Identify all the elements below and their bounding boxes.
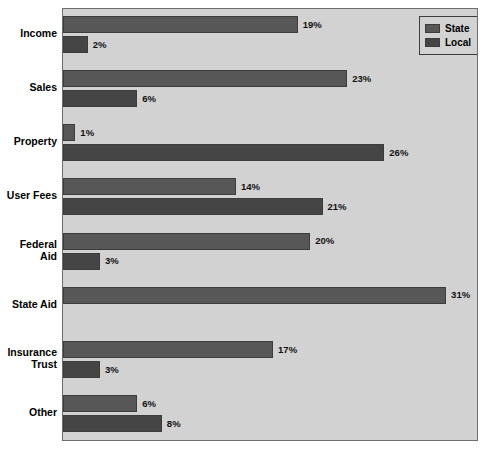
y-axis-label-line: Trust: [0, 358, 57, 370]
bar-value-label: 20%: [315, 236, 334, 246]
bar-group: 14%21%: [63, 171, 477, 225]
bar-rect: [63, 144, 384, 161]
bar-rect: [63, 253, 100, 270]
y-axis-label-line: Federal: [0, 238, 57, 250]
bar-value-label: 21%: [328, 202, 347, 212]
y-axis-label-sales: Sales: [0, 81, 57, 93]
y-axis-label-state-aid: State Aid: [0, 298, 57, 310]
bar-group: 19%2%: [63, 9, 477, 63]
bar-rect: [63, 178, 236, 195]
bar-rect: [63, 124, 75, 141]
y-axis-label-line: Income: [0, 27, 57, 39]
legend-label: State: [445, 23, 469, 34]
y-axis-label-other: Other: [0, 406, 57, 418]
y-axis-category-labels: IncomeSalesPropertyUser FeesFederalAidSt…: [0, 8, 57, 441]
bar-state: 23%: [63, 70, 371, 87]
legend-item-local[interactable]: Local: [425, 36, 471, 49]
bar-rect: [63, 287, 446, 304]
bar-value-label: 6%: [142, 399, 156, 409]
y-axis-label-user-fees: User Fees: [0, 189, 57, 201]
bar-rect: [63, 395, 137, 412]
bar-local: 3%: [63, 361, 119, 378]
bar-state: 14%: [63, 178, 260, 195]
bar-local: 26%: [63, 144, 408, 161]
bar-value-label: 17%: [278, 345, 297, 355]
y-axis-label-line: Property: [0, 135, 57, 147]
bar-group: 31%: [63, 280, 477, 334]
y-axis-label-income: Income: [0, 27, 57, 39]
legend-swatch-icon: [425, 24, 440, 33]
bar-value-label: 23%: [352, 74, 371, 84]
bar-value-label: 26%: [389, 148, 408, 158]
y-axis-label-federal-aid: FederalAid: [0, 238, 57, 262]
chart-legend: StateLocal: [419, 16, 478, 55]
bar-state: 6%: [63, 395, 156, 412]
bar-state: 19%: [63, 16, 322, 33]
bar-group: 17%3%: [63, 334, 477, 388]
bar-rect: [63, 70, 347, 87]
bar-rect: [63, 233, 310, 250]
bar-value-label: 6%: [142, 94, 156, 104]
bar-state: 20%: [63, 233, 334, 250]
bar-group: 20%3%: [63, 226, 477, 280]
legend-item-state[interactable]: State: [425, 22, 471, 35]
bar-value-label: 3%: [105, 256, 119, 266]
bar-value-label: 31%: [451, 290, 470, 300]
bar-state: 17%: [63, 341, 297, 358]
y-axis-label-line: User Fees: [0, 189, 57, 201]
plot-area: 19%2%23%6%1%26%14%21%20%3%31%17%3%6%8% S…: [62, 8, 478, 441]
y-axis-label-line: Sales: [0, 81, 57, 93]
bar-rect: [63, 90, 137, 107]
bar-state: 31%: [63, 287, 470, 304]
bar-state: 1%: [63, 124, 94, 141]
bar-group: 6%8%: [63, 388, 477, 441]
bar-chart: IncomeSalesPropertyUser FeesFederalAidSt…: [0, 0, 484, 451]
y-axis-label-line: Insurance: [0, 346, 57, 358]
bar-value-label: 14%: [241, 182, 260, 192]
legend-swatch-icon: [425, 38, 440, 47]
bar-group: 23%6%: [63, 63, 477, 117]
bar-group: 1%26%: [63, 117, 477, 171]
bar-value-label: 8%: [167, 419, 181, 429]
bar-rect: [63, 198, 323, 215]
bar-local: 2%: [63, 36, 106, 53]
bar-rect: [63, 16, 298, 33]
bar-value-label: 2%: [93, 40, 107, 50]
bar-rect: [63, 341, 273, 358]
bar-rect: [63, 415, 162, 432]
y-axis-label-property: Property: [0, 135, 57, 147]
y-axis-label-line: State Aid: [0, 298, 57, 310]
bar-local: 3%: [63, 253, 119, 270]
bar-value-label: 3%: [105, 365, 119, 375]
bar-local: 8%: [63, 415, 181, 432]
y-axis-label-insurance-trust: InsuranceTrust: [0, 346, 57, 370]
y-axis-label-line: Other: [0, 406, 57, 418]
bar-local: 6%: [63, 90, 156, 107]
legend-label: Local: [445, 37, 471, 48]
bar-local: 21%: [63, 198, 347, 215]
bar-rect: [63, 36, 88, 53]
bar-value-label: 19%: [303, 20, 322, 30]
bar-rect: [63, 361, 100, 378]
y-axis-label-line: Aid: [0, 250, 57, 262]
bar-value-label: 1%: [80, 128, 94, 138]
